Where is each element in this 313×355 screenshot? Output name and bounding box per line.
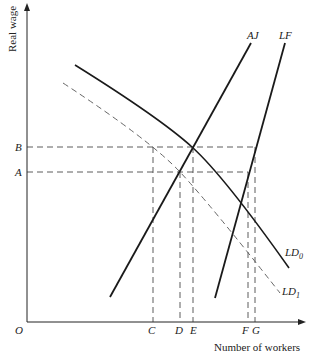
aj-label: AJ bbox=[246, 29, 260, 41]
lf-label: LF bbox=[278, 29, 292, 41]
x-tick-e: E bbox=[189, 324, 197, 336]
guide-lines bbox=[27, 147, 255, 322]
labor-market-diagram: Real wage Number of workers O B A C D E … bbox=[0, 0, 313, 355]
ld1-label: LD1 bbox=[281, 285, 300, 300]
x-tick-c: C bbox=[148, 324, 156, 336]
origin-label: O bbox=[15, 324, 23, 336]
x-tick-g: G bbox=[252, 324, 260, 336]
x-axis-arrow-icon bbox=[298, 319, 306, 325]
y-axis-title: Real wage bbox=[6, 6, 18, 52]
y-tick-a: A bbox=[14, 166, 22, 178]
ld0-label: LD0 bbox=[284, 246, 303, 261]
y-axis-arrow-icon bbox=[24, 3, 30, 11]
y-tick-b: B bbox=[15, 141, 22, 153]
axes bbox=[24, 3, 306, 325]
x-tick-f: F bbox=[241, 324, 249, 336]
x-tick-d: D bbox=[174, 324, 183, 336]
lf-line bbox=[215, 43, 285, 298]
aj-line bbox=[110, 43, 251, 297]
x-axis-title: Number of workers bbox=[214, 341, 300, 353]
